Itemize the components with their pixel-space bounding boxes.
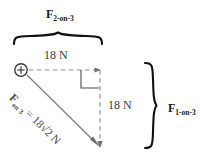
right-angle-marker [81,70,99,88]
right-magnitude-label: 18 N [108,99,132,111]
top-force-subscript: 2-on-3 [53,14,73,23]
resultant-vector [27,75,96,143]
right-brace [145,63,157,148]
diagram-vectors [0,0,207,164]
top-force-label: F2-on-3 [46,8,74,20]
top-magnitude-label: 18 N [44,49,68,61]
force-diagram-figure: F2-on-3 18 N 18 N F1-on-3 Fon 3 = 18√2 N [0,0,207,164]
top-brace [14,33,102,45]
right-force-subscript: 1-on-3 [175,108,195,117]
right-force-label: F1-on-3 [168,102,196,114]
